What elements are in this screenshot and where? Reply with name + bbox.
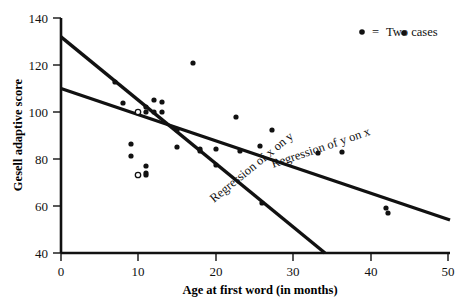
y-tick-label-100: 100 [29, 105, 49, 120]
data-point [237, 148, 242, 153]
data-point [128, 153, 133, 158]
data-point [174, 144, 179, 149]
data-point [257, 143, 262, 148]
data-point [383, 205, 388, 210]
data-point [385, 210, 390, 215]
data-point [151, 109, 156, 114]
x-tick-label-40: 40 [365, 264, 378, 279]
data-point [190, 60, 195, 65]
data-point [143, 104, 148, 109]
legend-equals-sign: = [372, 25, 379, 39]
data-point [143, 109, 148, 114]
x-tick-label-30: 30 [287, 264, 300, 279]
legend-marker-icon [359, 29, 365, 35]
data-point [259, 200, 264, 205]
legend-label: Two cases [386, 25, 438, 39]
data-point [233, 114, 238, 119]
x-tick-label-20: 20 [210, 264, 223, 279]
data-point [269, 127, 274, 132]
data-point [213, 162, 218, 167]
legend-overlay-marker-icon [401, 30, 407, 36]
data-point [143, 163, 148, 168]
data-point [159, 99, 164, 104]
data-point [213, 146, 218, 151]
x-tick-label-0: 0 [58, 264, 65, 279]
data-point [120, 100, 125, 105]
x-axis-title: Age at first word (in months) [182, 283, 337, 297]
x-tick-label-50: 50 [442, 264, 455, 279]
y-tick-label-140: 140 [29, 11, 49, 26]
y-axis-title: Gesell adaptive score [11, 78, 25, 191]
data-point [174, 127, 179, 132]
data-point [159, 109, 164, 114]
y-tick-label-60: 60 [35, 199, 48, 214]
data-point [339, 149, 344, 154]
data-point [143, 170, 148, 175]
y-tick-label-80: 80 [35, 152, 48, 167]
x-tick-label-10: 10 [132, 264, 145, 279]
data-point [151, 97, 156, 102]
data-point-open [135, 109, 140, 114]
data-point [112, 79, 117, 84]
y-tick-label-40: 40 [35, 246, 48, 261]
data-point [197, 146, 202, 151]
gesell-scatter-plot-figure: 140 120 100 80 60 40 0 10 20 30 40 50 Ag… [0, 0, 462, 301]
y-tick-label-120: 120 [29, 58, 49, 73]
data-point-open [135, 172, 140, 177]
data-point [128, 141, 133, 146]
